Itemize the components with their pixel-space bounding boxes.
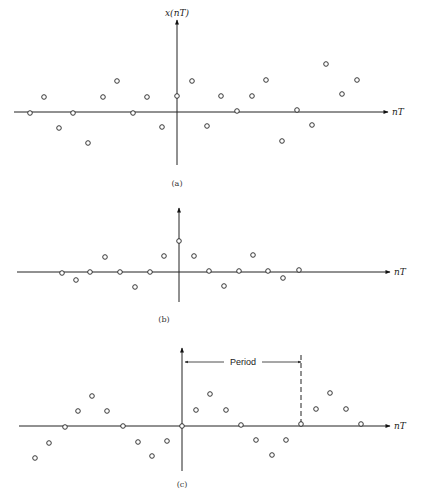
- sample-point: [250, 94, 255, 99]
- sample-point: [254, 438, 259, 443]
- sample-point: [103, 255, 108, 260]
- sample-point: [207, 269, 212, 274]
- sample-point: [90, 394, 95, 399]
- sample-point: [328, 391, 333, 396]
- sample-point: [180, 424, 185, 429]
- sample-point: [297, 268, 302, 273]
- sample-point: [57, 126, 62, 131]
- sample-point: [42, 95, 47, 100]
- sample-point: [251, 253, 256, 258]
- period-label: Period: [230, 357, 256, 367]
- sample-point: [133, 285, 138, 290]
- sampled-signal-figure: x(nT) nT (a) nT (b) nT Period (c): [0, 0, 421, 500]
- sample-point: [224, 408, 229, 413]
- sample-point: [160, 125, 165, 130]
- sample-point: [281, 276, 286, 281]
- sample-point: [115, 79, 120, 84]
- sample-point: [239, 423, 244, 428]
- sample-point: [280, 139, 285, 144]
- sample-point: [71, 111, 76, 116]
- sample-point: [33, 456, 38, 461]
- sample-point: [299, 422, 304, 427]
- sample-point: [47, 441, 52, 446]
- sample-point: [284, 438, 289, 443]
- sample-point: [310, 123, 315, 128]
- sample-point: [235, 109, 240, 114]
- sample-point: [208, 392, 213, 397]
- samples-b: [60, 239, 302, 290]
- sample-point: [165, 439, 170, 444]
- sample-point: [270, 453, 275, 458]
- sample-point: [118, 270, 123, 275]
- sample-point: [145, 95, 150, 100]
- sample-point: [148, 270, 153, 275]
- panel-b: nT (b): [17, 208, 407, 324]
- caption-a: (a): [171, 179, 182, 188]
- sample-point: [222, 284, 227, 289]
- sample-point: [101, 95, 106, 100]
- sample-point: [205, 124, 210, 129]
- sample-point: [295, 108, 300, 113]
- sample-point: [266, 269, 271, 274]
- y-axis-label-a: x(nT): [165, 8, 189, 18]
- sample-point: [359, 422, 364, 427]
- sample-point: [60, 271, 65, 276]
- sample-point: [28, 111, 33, 116]
- sample-point: [162, 254, 167, 259]
- sample-point: [175, 94, 180, 99]
- sample-point: [76, 409, 81, 414]
- x-axis-label-a: nT: [392, 107, 405, 117]
- sample-point: [192, 254, 197, 259]
- sample-point: [150, 454, 155, 459]
- sample-point: [194, 408, 199, 413]
- sample-point: [237, 269, 242, 274]
- sample-point: [131, 111, 136, 116]
- panel-c: nT Period (c): [19, 348, 407, 489]
- sample-point: [177, 239, 182, 244]
- samples-a: [28, 62, 360, 146]
- sample-point: [74, 278, 79, 283]
- sample-point: [355, 78, 360, 83]
- sample-point: [324, 62, 329, 67]
- sample-point: [340, 92, 345, 97]
- sample-point: [136, 440, 141, 445]
- caption-c: (c): [177, 480, 188, 489]
- caption-b: (b): [158, 315, 169, 324]
- sample-point: [264, 78, 269, 83]
- x-axis-label-b: nT: [394, 267, 407, 277]
- sample-point: [86, 141, 91, 146]
- sample-point: [88, 270, 93, 275]
- x-axis-label-c: nT: [394, 421, 407, 431]
- panel-a: x(nT) nT (a): [14, 8, 405, 188]
- sample-point: [314, 407, 319, 412]
- sample-point: [344, 407, 349, 412]
- sample-point: [219, 94, 224, 99]
- sample-point: [105, 409, 110, 414]
- sample-point: [121, 424, 126, 429]
- sample-point: [190, 79, 195, 84]
- sample-point: [63, 425, 68, 430]
